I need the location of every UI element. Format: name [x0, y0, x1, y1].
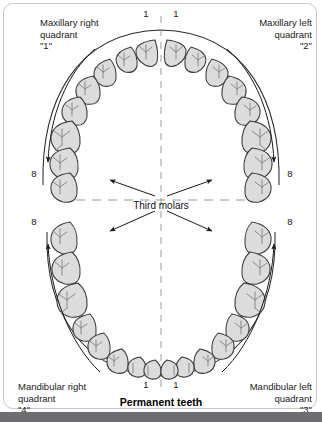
- tooth-18: [51, 173, 77, 202]
- tooth-48: [51, 222, 77, 254]
- third-molar-arrow-lower-right: [110, 211, 155, 231]
- tooth-28: [245, 173, 271, 202]
- bottom-band: [0, 412, 322, 422]
- tooth-number-maxillary-right-third-molar: 8: [27, 168, 41, 179]
- tooth-number-maxillary-right-central-incisor: 1: [139, 8, 153, 19]
- quadrant-2-teeth: [164, 40, 272, 202]
- tooth-47: [52, 252, 80, 284]
- dental-chart-figure: Maxillary right quadrant "1" Maxillary l…: [0, 0, 322, 422]
- quadrant-1-teeth: [50, 40, 158, 202]
- tooth-31: [161, 360, 178, 379]
- tooth-number-mandibular-left-central-incisor: 1: [169, 379, 183, 390]
- third-molars-annotation: Third molars: [111, 200, 211, 211]
- tooth-41: [144, 360, 161, 379]
- tooth-37: [242, 252, 270, 284]
- tooth-25: [235, 97, 260, 125]
- tooth-42: [128, 357, 146, 377]
- tooth-number-mandibular-right-central-incisor: 1: [139, 379, 153, 390]
- tooth-21: [164, 40, 186, 66]
- tooth-number-mandibular-left-third-molar: 8: [283, 216, 297, 227]
- tooth-38: [245, 222, 271, 254]
- quadrant-1-label: Maxillary right quadrant "1": [40, 17, 155, 52]
- tooth-15: [62, 97, 87, 125]
- tooth-32: [176, 357, 194, 377]
- quadrant-2-label: Maxillary left quadrant "2": [200, 17, 312, 52]
- tooth-number-maxillary-left-third-molar: 8: [283, 168, 297, 179]
- dental-arch-diagram: [0, 0, 322, 422]
- third-molar-arrow-lower-left: [167, 211, 212, 231]
- figure-caption: Permanent teeth: [91, 396, 231, 408]
- tooth-number-maxillary-left-central-incisor: 1: [169, 8, 183, 19]
- third-molar-arrow-upper-right: [110, 180, 155, 196]
- tooth-number-mandibular-right-third-molar: 8: [27, 216, 41, 227]
- third-molar-arrow-upper-left: [167, 180, 212, 196]
